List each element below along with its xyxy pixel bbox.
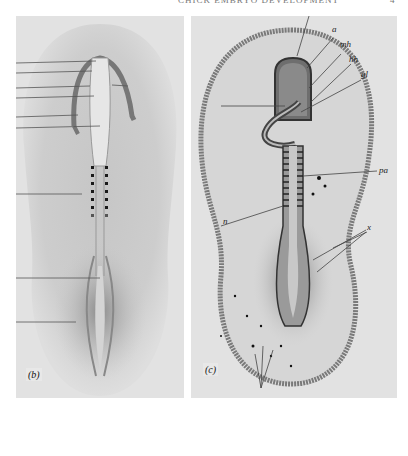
figure-panel-b: (b): [16, 16, 184, 398]
label-a: a: [332, 24, 337, 34]
panel-c-caption: (c): [203, 363, 218, 376]
label-pa: pa: [379, 165, 388, 175]
panel-b-caption: (b): [26, 368, 42, 381]
label-hh: hh: [349, 54, 358, 64]
figure-panel-c: a mh hh gl pa n x (c): [191, 16, 397, 398]
running-head-title: CHICK EMBRYO DEVELOPMENT: [178, 0, 339, 5]
label-mh: mh: [340, 39, 351, 49]
label-n: n: [223, 216, 228, 226]
embryo-b-illustration: [16, 16, 184, 398]
label-x: x: [367, 222, 371, 232]
label-gl: gl: [361, 69, 368, 79]
running-head: CHICK EMBRYO DEVELOPMENT 4: [178, 0, 408, 5]
page-number: 4: [390, 0, 396, 5]
